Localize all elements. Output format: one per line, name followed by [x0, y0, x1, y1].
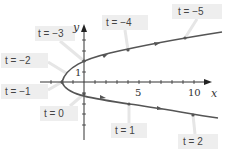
y-axis-label: y: [72, 21, 80, 34]
y-tick-1: 1: [75, 67, 81, 78]
direction-arrow-icon: [100, 95, 106, 99]
x-tick-10: 10: [188, 87, 201, 98]
x-axis-label: x: [211, 87, 218, 100]
label-t-minus-4: t = −4: [106, 17, 132, 28]
label-t-2: t = 2: [183, 136, 203, 147]
y-axis: [82, 30, 86, 140]
y-axis-arrow-icon: [81, 24, 87, 32]
label-t-minus-1: t = −1: [5, 86, 31, 97]
x-axis-arrow-icon: [204, 79, 212, 85]
parametric-curve: [62, 32, 222, 118]
label-t-minus-2: t = −2: [5, 55, 31, 66]
x-axis: [40, 80, 206, 84]
parametric-plot: y x 5 10 1 t = −5 t = −4 t = −3 t = −2 t…: [0, 0, 229, 157]
label-t-minus-3: t = −3: [38, 28, 64, 39]
x-tick-5: 5: [135, 87, 141, 98]
label-t-1: t = 1: [115, 125, 135, 136]
label-t-0: t = 0: [44, 108, 64, 119]
label-t-minus-5: t = −5: [178, 6, 204, 17]
